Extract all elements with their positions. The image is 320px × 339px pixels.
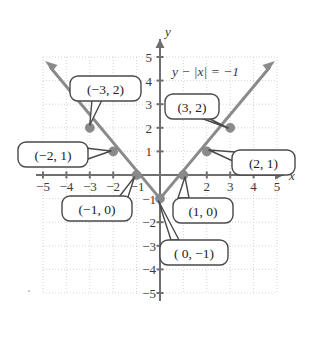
callout-label-3-2: (3, 2) (177, 100, 206, 115)
y-tick-label-4: 4 (146, 74, 153, 89)
y-tick-label--3: −3 (142, 239, 156, 254)
y-tick-label--2: −2 (142, 215, 156, 230)
y-tick-label--5: −5 (142, 286, 156, 301)
equation-label: y − |x| = −1 (170, 64, 239, 79)
y-tick-label--1: −1 (142, 192, 156, 207)
y-tick-label-3: 3 (146, 97, 153, 112)
callout-2-1: (2, 1) (209, 150, 295, 175)
x-tick-label-5: 5 (274, 179, 281, 194)
x-tick-label--5: −5 (36, 179, 50, 194)
data-point (179, 170, 188, 179)
equation-annotation: y − |x| = −1 (170, 64, 239, 79)
callout-label-neg1-0: (−1, 0) (79, 202, 116, 217)
callout-label-1-0: (1, 0) (188, 204, 217, 219)
x-tick-label--4: −4 (59, 179, 73, 194)
callout-label-neg2-1: (−2, 1) (35, 148, 72, 163)
y-tick-label-1: 1 (146, 144, 153, 159)
curve-right-arrowhead-icon (263, 61, 276, 72)
x-tick-label-4: 4 (250, 179, 257, 194)
data-point (155, 194, 164, 203)
x-tick-label--2: −2 (106, 179, 120, 194)
graph-figure: x y −5 −4 (0, 0, 320, 339)
scan-speck (28, 290, 30, 292)
x-tick-label--3: −3 (83, 179, 97, 194)
callout-neg3-2: (−3, 2) (70, 76, 141, 125)
x-tick-labels: −5 −4 −3 −2 −1 1 2 3 4 5 (36, 179, 280, 194)
coordinate-plane-svg: x y −5 −4 (0, 0, 320, 339)
callout-3-2: (3, 2) (165, 94, 228, 128)
x-tick-label-3: 3 (227, 179, 234, 194)
data-point (202, 147, 211, 156)
callout-label-0-neg1: ( 0, −1) (174, 246, 214, 261)
y-tick-label-2: 2 (146, 121, 153, 136)
callout-tail-neg2-1 (85, 148, 111, 160)
callout-neg2-1: (−2, 1) (18, 142, 111, 167)
x-tick-label-2: 2 (204, 179, 211, 194)
y-axis-label: y (163, 24, 171, 39)
y-tick-label-5: 5 (146, 50, 153, 65)
callout-tail-2-1 (209, 150, 235, 162)
y-axis-arrowhead-icon (156, 39, 165, 48)
curve-left-arrowhead-icon (45, 61, 58, 72)
y-tick-label--4: −4 (142, 262, 156, 277)
callout-label-neg3-2: (−3, 2) (87, 82, 124, 97)
callout-label-2-1: (2, 1) (249, 156, 278, 171)
